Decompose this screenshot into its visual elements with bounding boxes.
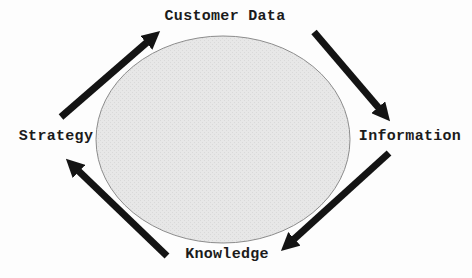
knowledge-cycle-diagram: Customer Data Information Knowledge Stra… — [0, 0, 472, 278]
node-label-knowledge: Knowledge — [185, 246, 269, 264]
node-label-customer-data: Customer Data — [165, 8, 286, 26]
node-label-strategy: Strategy — [19, 128, 93, 146]
cycle-ellipse — [96, 36, 350, 243]
node-label-information: Information — [359, 128, 461, 146]
